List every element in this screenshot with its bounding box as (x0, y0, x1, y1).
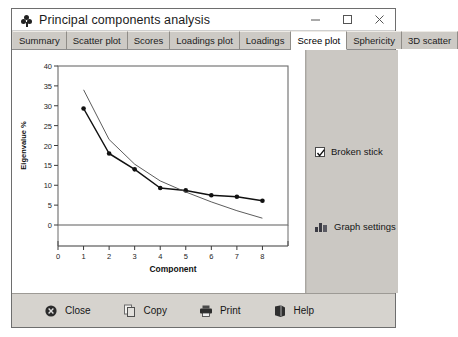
svg-text:0: 0 (48, 221, 52, 230)
close-button[interactable]: Close (44, 304, 91, 318)
print-button[interactable]: Print (199, 304, 241, 318)
svg-text:35: 35 (44, 82, 52, 91)
printer-icon (199, 304, 213, 318)
help-button-label: Help (294, 305, 315, 316)
graph-settings-button[interactable]: Graph settings (315, 221, 396, 232)
help-button[interactable]: Help (273, 304, 315, 318)
clover-icon (20, 13, 34, 27)
graph-settings-label: Graph settings (334, 221, 396, 232)
title-bar: Principal components analysis (12, 9, 395, 31)
svg-text:10: 10 (44, 181, 52, 190)
svg-text:8: 8 (260, 252, 264, 261)
svg-text:1: 1 (81, 252, 85, 261)
tab-loadings[interactable]: Loadings (240, 31, 292, 49)
svg-text:Component: Component (149, 264, 196, 273)
copy-icon (123, 304, 137, 318)
tab-loadings-plot[interactable]: Loadings plot (170, 31, 240, 49)
tab-strip: Summary Scatter plot Scores Loadings plo… (12, 31, 395, 50)
broken-stick-option[interactable]: Broken stick (315, 146, 383, 157)
tab-sphericity[interactable]: Sphericity (347, 31, 402, 49)
bottom-toolbar: Close Copy Print Help (12, 293, 395, 327)
svg-text:4: 4 (158, 252, 162, 261)
copy-button[interactable]: Copy (123, 304, 167, 318)
svg-text:7: 7 (235, 252, 239, 261)
maximize-icon[interactable] (331, 9, 363, 30)
svg-text:0: 0 (56, 252, 60, 261)
svg-text:30: 30 (44, 102, 52, 111)
svg-text:20: 20 (44, 142, 52, 151)
close-button-label: Close (65, 305, 91, 316)
broken-stick-label: Broken stick (331, 146, 383, 157)
window-title: Principal components analysis (39, 13, 210, 27)
print-button-label: Print (220, 305, 241, 316)
svg-text:2: 2 (107, 252, 111, 261)
broken-stick-checkbox[interactable] (315, 147, 325, 157)
close-circle-icon (44, 304, 58, 318)
close-icon[interactable] (363, 9, 395, 30)
tab-scatter-plot[interactable]: Scatter plot (67, 31, 128, 49)
svg-text:Eigenvalue %: Eigenvalue % (19, 121, 28, 170)
scree-plot-chart: 0510152025303540012345678ComponentEigenv… (12, 50, 305, 273)
help-book-icon (273, 304, 287, 318)
svg-text:5: 5 (184, 252, 188, 261)
bar-chart-icon (315, 221, 328, 232)
options-panel: Broken stick Graph settings (306, 50, 398, 293)
tab-3d-scatter[interactable]: 3D scatter (402, 31, 458, 49)
svg-text:15: 15 (44, 161, 52, 170)
window-controls (299, 9, 395, 30)
tab-scree-plot[interactable]: Scree plot (291, 31, 347, 50)
tab-summary[interactable]: Summary (13, 31, 67, 49)
svg-text:3: 3 (133, 252, 137, 261)
svg-text:25: 25 (44, 122, 52, 131)
application-window: Principal components analysis Summary Sc… (11, 8, 396, 328)
svg-text:6: 6 (209, 252, 213, 261)
svg-text:5: 5 (48, 201, 52, 210)
tab-scores[interactable]: Scores (128, 31, 171, 49)
content-body: 0510152025303540012345678ComponentEigenv… (12, 50, 395, 293)
copy-button-label: Copy (144, 305, 167, 316)
svg-text:40: 40 (44, 62, 52, 71)
scree-plot-canvas[interactable]: 0510152025303540012345678ComponentEigenv… (12, 50, 306, 293)
minimize-icon[interactable] (299, 9, 331, 30)
